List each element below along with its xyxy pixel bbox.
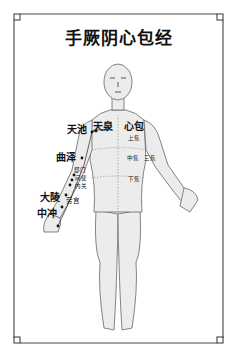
label-zhongchong: 中冲: [37, 209, 57, 219]
diagram-canvas: [0, 0, 237, 357]
label-lower-jiao: 下焦: [128, 177, 140, 183]
label-neiguan: 内关: [75, 184, 87, 190]
label-ximen: 郄门: [74, 168, 86, 174]
label-jianshi: 间使: [75, 176, 87, 182]
page-title: 手厥阴心包经: [0, 24, 237, 49]
label-pericardium: 心包: [124, 122, 144, 132]
label-upper-jiao: 上焦: [128, 136, 140, 142]
label-sanjiao: 三焦: [144, 156, 156, 162]
label-middle-jiao: 中焦: [127, 156, 139, 162]
label-tianchi: 天池: [67, 125, 87, 135]
label-tianquan: 天泉: [93, 122, 113, 132]
label-daling: 大陵: [40, 193, 60, 203]
label-laogong: 劳宫: [66, 198, 80, 205]
label-quze: 曲泽: [56, 153, 76, 163]
